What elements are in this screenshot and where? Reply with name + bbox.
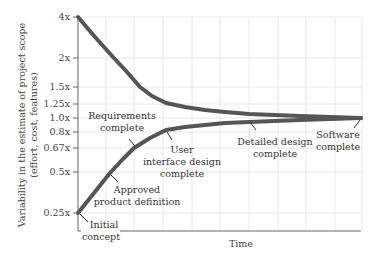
ytick-label: 2x [59,52,71,63]
annotation-approved-2: product definition [94,196,181,207]
annotation-ui-design-1: User [170,144,194,155]
upper-bound-line [78,17,361,118]
annotation-ui-design-2: interface design [143,156,221,167]
ytick-label: 1.5x [50,81,71,92]
annotation-ui-design-3: complete [160,168,205,179]
xlabel: Time [229,238,253,249]
annotation-initial-concept-2: concept [82,231,120,242]
ytick-label: 0.8x [50,126,71,137]
annotation-detailed-design-1: Detailed design [237,136,312,147]
cone-of-uncertainty-chart: 4x 2x 1.5x 1.25x 1.0x 0.8x 0.67x 0.5x 0.… [0,0,378,264]
ylabel-sub: (effort, cost, features) [28,72,39,177]
ytick-label: 4x [59,11,71,22]
ytick-label: 0.67x [43,142,70,153]
y-tick-labels: 4x 2x 1.5x 1.25x 1.0x 0.8x 0.67x 0.5x 0.… [43,11,70,218]
annotation-initial-concept-1: Initial [90,219,118,230]
annotation-approved-1: Approved [113,184,160,195]
ytick-label: 1.25x [43,98,70,109]
y-axis-title: Variability in the estimate of project s… [16,22,39,228]
ytick-label: 0.25x [43,207,70,218]
ytick-label: 1.0x [50,112,71,123]
annotation-detailed-design-2: complete [253,148,298,159]
milestone-annotations: Initial concept Approved product definit… [82,110,360,242]
annotation-software-complete-1: Software [316,129,360,140]
annotation-requirements-1: Requirements [88,110,156,121]
ytick-label: 0.5x [50,166,71,177]
annotation-software-complete-2: complete [316,141,361,152]
annotation-requirements-2: complete [100,122,145,133]
ylabel: Variability in the estimate of project s… [16,22,27,228]
